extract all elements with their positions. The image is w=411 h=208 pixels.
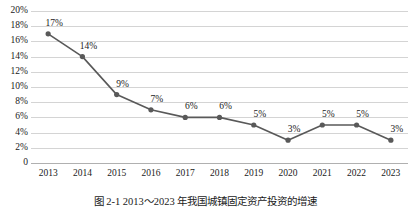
data-point-marker [285, 138, 290, 143]
data-point-marker [114, 92, 119, 97]
data-point-label: 9% [103, 79, 143, 89]
figure-container: 20%18%16%14%12%10%8%6%4%2%0 201320142015… [0, 0, 411, 208]
line-chart: 20%18%16%14%12%10%8%6%4%2%0 201320142015… [0, 0, 411, 185]
data-point-marker [46, 31, 51, 36]
data-point-label: 3% [377, 124, 411, 134]
figure-caption: 图 2-1 2013～2023 年我国城镇固定资产投资的增速 [0, 196, 411, 208]
data-point-marker [80, 54, 85, 59]
data-point-marker [388, 138, 393, 143]
data-point-label: 5% [343, 109, 383, 119]
data-point-marker [148, 107, 153, 112]
data-point-marker [251, 122, 256, 127]
data-point-label: 17% [34, 18, 74, 28]
data-point-label: 3% [274, 124, 314, 134]
data-point-marker [320, 122, 325, 127]
data-point-marker [217, 115, 222, 120]
data-point-label: 5% [240, 109, 280, 119]
data-point-marker [354, 122, 359, 127]
data-point-marker [183, 115, 188, 120]
data-point-label: 14% [68, 41, 108, 51]
